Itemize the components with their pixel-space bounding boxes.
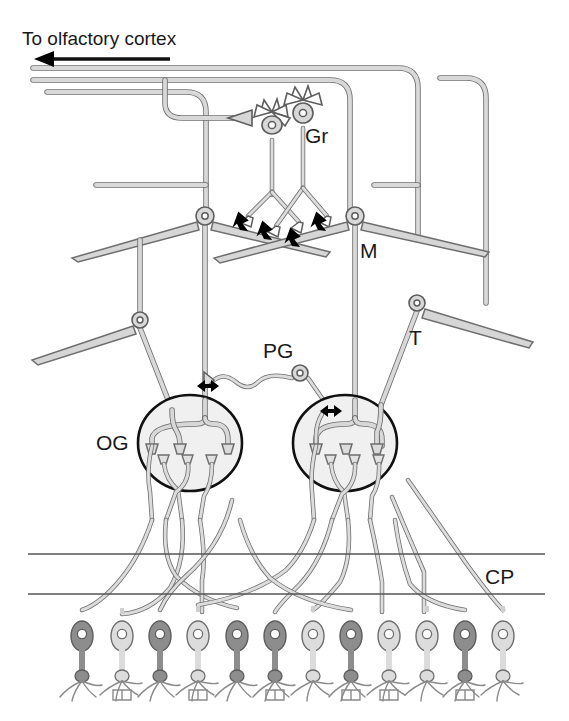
tufted-cell-left [32, 240, 172, 410]
circuit-diagram-canvas: .tube{ fill:none; stroke:#6e6e6e; stroke… [0, 0, 569, 721]
to-olfactory-cortex-arrow [34, 51, 170, 67]
receptor-neuron [100, 608, 142, 701]
receptor-neuron [60, 611, 102, 701]
centrifugal-axon-terminal-icon [228, 110, 252, 126]
label-granule-cell: Gr [305, 124, 328, 147]
label-mitral-cell: M [360, 239, 378, 262]
label-cribriform-plate: CP [485, 565, 514, 588]
receptor-neuron [138, 621, 180, 701]
receptor-neuron [367, 621, 409, 701]
label-tufted-cell: T [409, 326, 422, 349]
receptor-neuron [329, 621, 371, 701]
glomerulus-right [293, 395, 397, 520]
receptor-neuron [481, 606, 523, 701]
receptor-neuron [443, 621, 485, 701]
receptor-neuron [176, 606, 218, 701]
receptor-neuron [215, 621, 257, 701]
olfactory-tract-axons [33, 68, 486, 303]
olfactory-bulb-circuit-figure: .tube{ fill:none; stroke:#6e6e6e; stroke… [0, 0, 569, 721]
label-to-olfactory-cortex: To olfactory cortex [22, 28, 177, 49]
receptor-neuron [253, 621, 295, 701]
label-olfactory-glomerulus: OG [96, 431, 129, 454]
olfactory-receptor-neuron-layer [60, 606, 523, 701]
receptor-neuron [405, 606, 447, 701]
label-periglomerular-cell: PG [263, 339, 293, 362]
receptor-neuron [291, 606, 333, 701]
glomerulus-left [138, 395, 242, 520]
tufted-cell-right [381, 295, 533, 405]
